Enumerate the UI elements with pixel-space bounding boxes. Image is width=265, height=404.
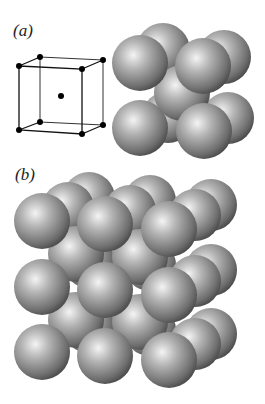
- extended-lattice: [14, 172, 237, 388]
- body-center-point: [58, 93, 64, 99]
- unit-cell-spheres: [112, 23, 254, 159]
- bcc-figure: [0, 0, 265, 404]
